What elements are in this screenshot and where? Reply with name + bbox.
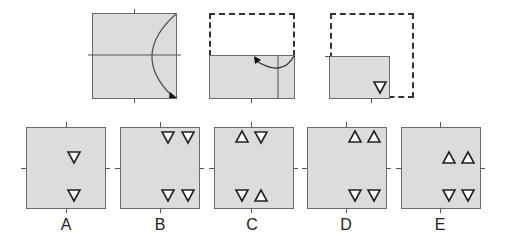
option-e-triangles-icon (0, 0, 509, 245)
option-label: E (430, 216, 450, 234)
